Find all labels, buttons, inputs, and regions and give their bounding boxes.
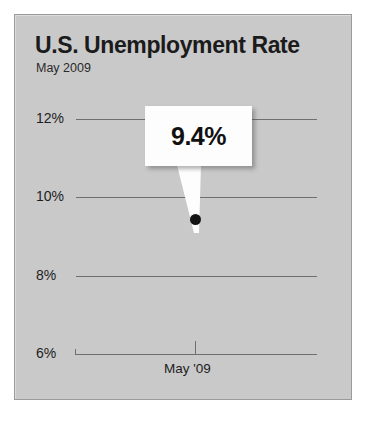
callout-pointer-icon xyxy=(177,165,217,237)
axis-baseline xyxy=(75,354,317,355)
plot-area: 12% 10% 8% 6% May '09 9.4% xyxy=(15,15,351,399)
xtick-label-may09: May '09 xyxy=(164,361,211,376)
ytick-label-10: 10% xyxy=(36,188,64,204)
axis-left-cap xyxy=(75,349,76,355)
ytick-label-6: 6% xyxy=(36,345,56,361)
axis-tick-may09 xyxy=(195,341,196,355)
ytick-label-12: 12% xyxy=(36,110,64,126)
callout-value-label: 9.4% xyxy=(171,122,226,151)
callout-box: 9.4% xyxy=(145,106,252,166)
chart-panel: U.S. Unemployment Rate May 2009 12% 10% … xyxy=(14,14,352,400)
data-point-may09 xyxy=(190,214,201,225)
ytick-label-8: 8% xyxy=(36,267,56,283)
gridline-8 xyxy=(76,276,317,277)
